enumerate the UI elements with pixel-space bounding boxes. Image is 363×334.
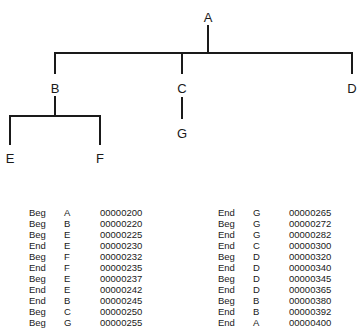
trace-node: G: [253, 207, 260, 218]
trace-time: 00000245: [100, 295, 142, 306]
trace-node: E: [64, 284, 70, 295]
trace-row: EndE00000242: [29, 284, 169, 295]
trace-row: EndC00000300: [218, 240, 358, 251]
trace-row: BegB00000380: [218, 295, 358, 306]
trace-event: Beg: [218, 273, 235, 284]
trace-row: BegD00000320: [218, 251, 358, 262]
trace-time: 00000230: [100, 240, 142, 251]
trace-event: Beg: [218, 251, 235, 262]
trace-time: 00000232: [100, 251, 142, 262]
trace-node: B: [64, 295, 70, 306]
trace-node: G: [64, 317, 71, 328]
trace-time: 00000220: [100, 218, 142, 229]
trace-event: End: [218, 262, 235, 273]
trace-row: EndD00000340: [218, 262, 358, 273]
trace-time: 00000282: [289, 229, 331, 240]
trace-node: D: [253, 273, 260, 284]
tree-node-c: C: [177, 82, 186, 95]
trace-time: 00000300: [289, 240, 331, 251]
trace-row: BegD00000345: [218, 273, 358, 284]
trace-event: End: [218, 317, 235, 328]
trace-event: End: [218, 240, 235, 251]
trace-node: G: [253, 218, 260, 229]
trace-row: EndG00000265: [218, 207, 358, 218]
trace-event: End: [218, 306, 235, 317]
trace-node: D: [253, 284, 260, 295]
trace-event: Beg: [29, 306, 46, 317]
tree-node-g: G: [177, 127, 187, 140]
tree-node-a: A: [204, 11, 213, 24]
trace-table-right: EndG00000265 BegG00000272 EndG00000282 E…: [218, 207, 358, 328]
trace-time: 00000345: [289, 273, 331, 284]
trace-event: End: [218, 229, 235, 240]
trace-row: BegE00000225: [29, 229, 169, 240]
tree-node-d: D: [347, 82, 356, 95]
tree-node-e: E: [6, 152, 15, 165]
trace-node: D: [253, 251, 260, 262]
trace-event: Beg: [29, 317, 46, 328]
trace-row: BegC00000250: [29, 306, 169, 317]
trace-event: Beg: [218, 218, 235, 229]
trace-node: C: [253, 240, 260, 251]
trace-event: End: [218, 207, 235, 218]
trace-row: EndA00000400: [218, 317, 358, 328]
trace-event: Beg: [218, 295, 235, 306]
trace-row: BegA00000200: [29, 207, 169, 218]
trace-row: EndB00000392: [218, 306, 358, 317]
trace-time: 00000237: [100, 273, 142, 284]
trace-row: BegG00000255: [29, 317, 169, 328]
trace-time: 00000272: [289, 218, 331, 229]
trace-time: 00000225: [100, 229, 142, 240]
trace-node: A: [253, 317, 259, 328]
tree-node-b: B: [51, 82, 60, 95]
trace-time: 00000365: [289, 284, 331, 295]
trace-row: EndG00000282: [218, 229, 358, 240]
trace-row: BegF00000232: [29, 251, 169, 262]
trace-row: BegG00000272: [218, 218, 358, 229]
trace-node: F: [64, 251, 70, 262]
trace-row: EndE00000230: [29, 240, 169, 251]
trace-time: 00000400: [289, 317, 331, 328]
trace-node: A: [64, 207, 70, 218]
trace-node: C: [64, 306, 71, 317]
trace-node: B: [253, 306, 259, 317]
trace-time: 00000200: [100, 207, 142, 218]
trace-node: B: [64, 218, 70, 229]
trace-time: 00000250: [100, 306, 142, 317]
trace-node: F: [64, 262, 70, 273]
trace-event: Beg: [29, 218, 46, 229]
trace-node: E: [64, 229, 70, 240]
trace-time: 00000235: [100, 262, 142, 273]
trace-table-left: BegA00000200 BegB00000220 BegE00000225 E…: [29, 207, 169, 328]
trace-event: End: [29, 240, 46, 251]
trace-time: 00000392: [289, 306, 331, 317]
trace-event: End: [29, 295, 46, 306]
trace-row: BegE00000237: [29, 273, 169, 284]
trace-row: EndB00000245: [29, 295, 169, 306]
trace-time: 00000320: [289, 251, 331, 262]
tree-node-f: F: [96, 152, 104, 165]
trace-node: E: [64, 240, 70, 251]
trace-node: E: [64, 273, 70, 284]
trace-time: 00000255: [100, 317, 142, 328]
trace-time: 00000340: [289, 262, 331, 273]
trace-event: End: [218, 284, 235, 295]
trace-time: 00000242: [100, 284, 142, 295]
trace-event: Beg: [29, 207, 46, 218]
trace-row: EndD00000365: [218, 284, 358, 295]
trace-event: End: [29, 284, 46, 295]
trace-event: Beg: [29, 273, 46, 284]
trace-node: D: [253, 262, 260, 273]
trace-node: G: [253, 229, 260, 240]
trace-node: B: [253, 295, 259, 306]
trace-event: End: [29, 262, 46, 273]
trace-time: 00000265: [289, 207, 331, 218]
trace-row: BegB00000220: [29, 218, 169, 229]
trace-time: 00000380: [289, 295, 331, 306]
trace-row: EndF00000235: [29, 262, 169, 273]
trace-event: Beg: [29, 251, 46, 262]
trace-event: Beg: [29, 229, 46, 240]
